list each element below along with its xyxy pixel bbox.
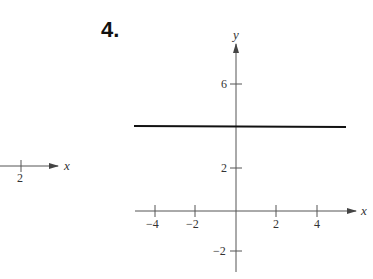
x-tick-label: 4 <box>314 217 320 231</box>
y-tick-label: 6 <box>221 77 227 91</box>
problem-number: 4. <box>101 17 119 42</box>
y-axis: 6 2 −2 y <box>213 27 242 272</box>
y-tick-label: 2 <box>221 161 227 175</box>
x-tick-label: −2 <box>186 217 199 231</box>
y-axis-label: y <box>231 27 239 42</box>
line-y-equals-4 <box>134 126 346 127</box>
left-fragment-axis: 2 x <box>0 158 70 185</box>
left-tick-label: 2 <box>17 171 23 185</box>
x-axis: −4 −2 2 4 x <box>135 203 367 231</box>
x-tick-label: 2 <box>273 217 279 231</box>
x-tick-label: −4 <box>146 217 159 231</box>
left-x-axis-label: x <box>63 158 70 173</box>
x-axis-label: x <box>360 203 367 218</box>
graph-figure: 4. 2 x −4 −2 2 4 x 6 2 −2 y <box>0 0 373 279</box>
y-tick-label: −2 <box>213 244 226 258</box>
